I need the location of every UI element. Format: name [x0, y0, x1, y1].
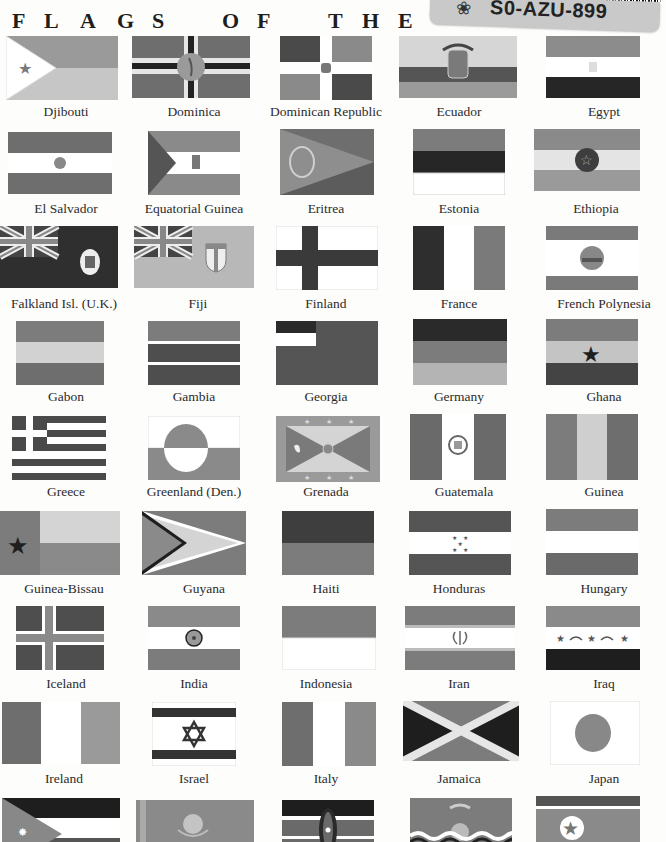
flag-card: Greenland (Den.) — [130, 414, 258, 509]
flag-card — [136, 796, 264, 842]
svg-text:★: ★ — [304, 418, 310, 426]
flag-card: Gambia — [130, 319, 258, 414]
flag-kiribati — [410, 798, 512, 842]
flag-guyana — [142, 511, 246, 575]
flag-germany — [413, 319, 507, 385]
flag-card: Israel — [130, 699, 258, 794]
flag-haiti — [282, 511, 374, 575]
flag-ecuador — [399, 36, 517, 98]
flag-label: Equatorial Guinea — [130, 201, 258, 217]
flag-card: Greece — [2, 414, 130, 509]
flag-card: ★ Ghana — [540, 319, 666, 414]
flag-label: India — [130, 676, 258, 692]
flag-fiji — [134, 226, 254, 288]
svg-text:★: ★ — [562, 817, 579, 839]
flag-label: Iraq — [540, 676, 666, 692]
heading-letter: H — [362, 8, 379, 34]
flag-israel — [152, 702, 236, 766]
heading-letter: F — [257, 8, 270, 34]
flag-egypt — [546, 36, 640, 98]
flag-card: Iran — [395, 604, 523, 699]
flag-card: Estonia — [395, 129, 523, 224]
flag-label: Ghana — [540, 389, 666, 405]
flag-greenland — [148, 416, 240, 480]
flag-card: Guatemala — [400, 414, 528, 509]
svg-text:★: ★ — [326, 474, 332, 482]
heading-letter: F — [12, 8, 25, 34]
flag-georgia — [276, 321, 378, 385]
flag-label: Ireland — [0, 771, 128, 787]
svg-text:★: ★ — [463, 546, 468, 553]
flag-japan — [550, 701, 640, 765]
flag-card: ★★★★★ Honduras — [395, 509, 523, 604]
flag-honduras: ★★★★★ — [409, 511, 511, 575]
flag-label: Guinea-Bissau — [0, 581, 128, 597]
flag-card: Finland — [262, 224, 390, 319]
flag-label: Finland — [262, 296, 390, 312]
flag-gambia — [148, 321, 240, 385]
svg-text:★: ★ — [326, 418, 332, 426]
flag-card: Guinea — [540, 414, 666, 509]
flag-card: Guyana — [140, 509, 268, 604]
svg-text:★: ★ — [304, 474, 310, 482]
flag-label: Germany — [395, 389, 523, 405]
flag-label: Haiti — [262, 581, 390, 597]
flag-guinea-bissau: ★ — [0, 511, 120, 575]
flag-label: Iceland — [2, 676, 130, 692]
flag-iceland — [16, 606, 104, 670]
flag-card: Gabon — [2, 319, 130, 414]
flag-label: Eritrea — [262, 201, 390, 217]
flag-label: Djibouti — [2, 104, 130, 120]
svg-text:★: ★ — [620, 633, 629, 644]
flag-card: Georgia — [262, 319, 390, 414]
flag-label: Guyana — [140, 581, 268, 597]
flag-card: El Salvador — [2, 129, 130, 224]
svg-text:★: ★ — [556, 633, 565, 644]
svg-text:★: ★ — [452, 546, 457, 553]
heading-letter: T — [328, 8, 343, 34]
flag-french-polynesia — [546, 226, 638, 290]
flag-kazakhstan — [136, 800, 254, 842]
flag-card: Iceland — [2, 604, 130, 699]
flag-card: ★ Guinea-Bissau — [0, 509, 128, 604]
flag-eritrea — [280, 129, 374, 195]
flag-card: Ecuador — [395, 34, 523, 129]
flag-france — [413, 226, 505, 290]
flag-equatorial-guinea — [148, 131, 240, 195]
flag-dominica — [132, 36, 250, 98]
flag-el-salvador — [8, 132, 112, 194]
svg-text:☆: ☆ — [580, 152, 593, 168]
svg-text:★: ★ — [348, 418, 354, 426]
svg-text:★: ★ — [348, 474, 354, 482]
flag-card: Hungary — [540, 509, 666, 604]
flag-card: Jamaica — [395, 699, 523, 794]
flag-card: Eritrea — [262, 129, 390, 224]
flag-finland — [276, 226, 378, 290]
flag-card: Falkland Isl. (U.K.) — [0, 224, 128, 319]
flag-card: Germany — [395, 319, 523, 414]
flag-card: Haiti — [262, 509, 390, 604]
flag-card: Dominica — [130, 34, 258, 129]
flag-label: French Polynesia — [540, 296, 666, 312]
flag-ireland — [2, 702, 120, 764]
heading-letter: A — [80, 8, 96, 34]
flag-label: Dominica — [130, 104, 258, 120]
flag-label: Gabon — [2, 389, 130, 405]
flag-ghana: ★ — [546, 319, 638, 385]
flag-label: Guinea — [540, 484, 666, 500]
flag-label: Japan — [540, 771, 666, 787]
flag-north-korea: ★ — [536, 796, 640, 842]
heading-letter: S — [152, 8, 164, 34]
flag-card: ✸ — [0, 796, 128, 842]
flag-card: France — [395, 224, 523, 319]
flag-card: Ireland — [0, 699, 128, 794]
flag-label: Israel — [130, 771, 258, 787]
flag-card: Japan — [540, 699, 666, 794]
flag-djibouti: ★ — [6, 36, 118, 100]
flag-label: Iran — [395, 676, 523, 692]
flag-india — [148, 606, 240, 670]
flag-guatemala — [410, 414, 506, 480]
flag-jamaica — [403, 701, 519, 761]
flag-card — [405, 796, 533, 842]
svg-text:★: ★ — [18, 59, 32, 78]
